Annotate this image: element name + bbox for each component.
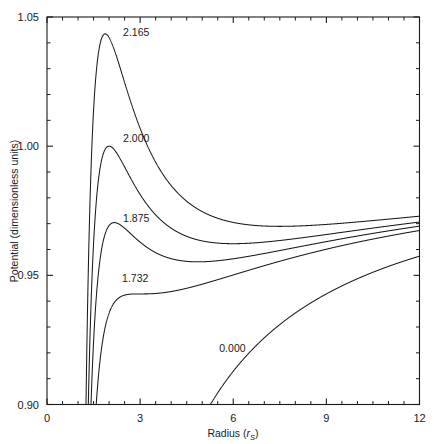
- x-axis-title-main: Radius (: [207, 427, 247, 439]
- x-tick-label: 3: [137, 412, 143, 424]
- curve-label-2.165: 2.165: [123, 26, 149, 38]
- y-tick-label: 0.90: [18, 399, 39, 411]
- curve-label-2.000: 2.000: [123, 132, 149, 144]
- y-tick-label: 1.00: [18, 140, 39, 152]
- curve-label-1.732: 1.732: [122, 272, 148, 284]
- effective-potential-chart: 0369120.900.951.001.05 2.1652.0001.8751.…: [0, 0, 435, 444]
- chart-background: [0, 0, 435, 444]
- x-tick-label: 12: [413, 412, 425, 424]
- curve-label-0.000: 0.000: [219, 342, 245, 354]
- x-tick-label: 0: [44, 412, 50, 424]
- x-tick-label: 9: [323, 412, 329, 424]
- curve-label-1.875: 1.875: [123, 212, 149, 224]
- x-tick-label: 6: [230, 412, 236, 424]
- y-tick-label: 1.05: [18, 11, 39, 23]
- y-axis-title: Potential (dimensionless units): [8, 140, 20, 282]
- y-tick-label: 0.95: [18, 269, 39, 281]
- x-axis-title-tail: ): [255, 427, 259, 439]
- chart-figure: 0369120.900.951.001.05 2.1652.0001.8751.…: [0, 0, 435, 444]
